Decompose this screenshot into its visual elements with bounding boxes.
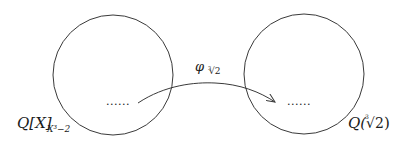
right-label-radical: √2 (366, 115, 384, 131)
left-set-label: Q[X] X³−2 (17, 114, 71, 134)
left-set-dots: ...... (106, 95, 130, 108)
mapping-symbol: φ (195, 59, 205, 74)
right-label-close: ) (384, 114, 390, 132)
right-set-dots: ...... (287, 95, 311, 108)
right-set-label: Q( 3 √2 ) (348, 113, 390, 132)
mapping-sub-radical: √2 (209, 66, 220, 76)
left-set-circle (53, 15, 173, 135)
diagram-canvas: ...... ...... φ 3 √2 Q[X] X³−2 Q( 3 √2 ) (0, 0, 404, 141)
mapping-arrow (138, 83, 275, 103)
right-set-circle (244, 14, 364, 134)
mapping-label: φ 3 √2 (195, 59, 220, 76)
left-label-sub: X³−2 (46, 124, 71, 134)
